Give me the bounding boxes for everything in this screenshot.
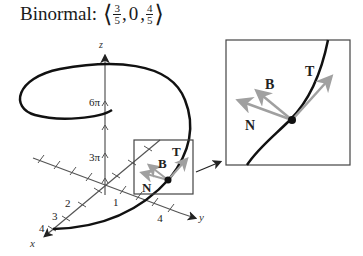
x-tick-3: 3 <box>52 210 58 222</box>
label-N-small: N <box>142 180 152 195</box>
label-N-inset: N <box>245 118 255 133</box>
z-tick-6pi: 6π <box>89 96 101 108</box>
y-axis-label: y <box>198 211 204 223</box>
point-small <box>165 177 172 184</box>
y-tick-4: 4 <box>157 212 163 224</box>
z-axis <box>102 56 108 195</box>
x-axis-label: x <box>29 237 35 249</box>
z-tick-3pi: 3π <box>89 151 101 163</box>
zoom-pointer-arrow <box>196 162 220 172</box>
label-T-inset: T <box>305 64 315 79</box>
y-axis <box>33 155 195 218</box>
x-tick-2: 2 <box>65 197 71 209</box>
label-T-small: T <box>172 144 181 159</box>
label-B-small: B <box>158 156 167 171</box>
x-tick-4: 4 <box>39 222 45 234</box>
x-tick-1: 1 <box>113 196 119 208</box>
point-inset <box>288 116 296 124</box>
helix-diagram: z 6π 3π y 4 1 2 3 4 x <box>0 0 363 256</box>
label-B-inset: B <box>265 77 274 92</box>
z-axis-label: z <box>98 39 103 50</box>
